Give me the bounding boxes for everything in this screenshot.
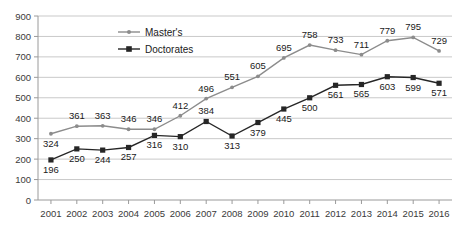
data-label: 729 <box>431 35 447 46</box>
data-point-marker <box>359 82 364 87</box>
data-point-marker <box>127 127 131 131</box>
x-axis-tick-label: 2001 <box>40 208 61 219</box>
y-axis-tick-label: 600 <box>15 72 31 83</box>
data-label: 363 <box>95 110 111 121</box>
data-point-marker <box>100 148 105 153</box>
legend-item-label: Doctorates <box>145 44 193 55</box>
data-label: 599 <box>405 82 421 93</box>
data-label: 346 <box>147 113 163 124</box>
data-label: 733 <box>328 34 344 45</box>
x-axis-tick-label: 2007 <box>196 208 217 219</box>
data-label: 346 <box>121 113 137 124</box>
data-label: 779 <box>379 25 395 36</box>
data-point-marker <box>282 56 286 60</box>
data-point-marker <box>178 134 183 139</box>
data-point-marker <box>126 145 131 150</box>
data-label: 711 <box>354 39 369 50</box>
data-point-marker <box>153 127 157 131</box>
data-label: 496 <box>198 83 214 94</box>
data-point-marker <box>436 81 441 86</box>
line-chart: 0100200300400500600700800900200120022003… <box>0 0 461 238</box>
data-point-marker <box>385 74 390 79</box>
y-axis-tick-label: 200 <box>15 154 31 165</box>
data-label: 313 <box>224 140 240 151</box>
y-axis-tick-label: 0 <box>26 195 31 206</box>
x-axis-tick-label: 2008 <box>221 208 242 219</box>
data-point-marker <box>49 132 53 136</box>
x-axis-tick-label: 2009 <box>247 208 268 219</box>
data-label: 758 <box>302 29 318 40</box>
y-axis-tick-label: 500 <box>15 92 31 103</box>
data-point-marker <box>411 75 416 80</box>
data-point-marker <box>437 49 441 53</box>
data-label: 196 <box>43 164 59 175</box>
data-point-marker <box>334 48 338 52</box>
data-label: 310 <box>172 141 188 152</box>
data-point-marker <box>74 146 79 151</box>
data-point-marker <box>281 106 286 111</box>
data-label: 445 <box>276 113 292 124</box>
data-point-marker <box>75 124 79 128</box>
chart-canvas: 0100200300400500600700800900200120022003… <box>0 0 461 238</box>
data-label: 384 <box>198 105 214 116</box>
data-label: 571 <box>431 87 447 98</box>
data-point-marker <box>307 95 312 100</box>
data-point-marker <box>229 133 234 138</box>
data-point-marker <box>204 97 208 101</box>
data-point-marker <box>308 43 312 47</box>
y-axis-tick-label: 900 <box>15 11 31 22</box>
data-point-marker <box>48 157 53 162</box>
data-point-marker <box>204 119 209 124</box>
data-label: 379 <box>250 127 266 138</box>
data-label: 244 <box>95 154 111 165</box>
data-label: 603 <box>379 81 395 92</box>
x-axis-tick-label: 2011 <box>299 208 319 219</box>
y-axis-tick-label: 300 <box>15 133 31 144</box>
x-axis-tick-label: 2012 <box>325 208 346 219</box>
data-point-marker <box>333 83 338 88</box>
data-label: 316 <box>147 139 163 150</box>
legend-square-marker-icon <box>126 46 132 52</box>
data-label: 250 <box>69 153 85 164</box>
x-axis-tick-label: 2015 <box>403 208 424 219</box>
data-label: 257 <box>121 151 137 162</box>
x-axis-tick-label: 2002 <box>66 208 87 219</box>
data-label: 695 <box>276 42 292 53</box>
x-axis-tick-label: 2016 <box>428 208 449 219</box>
y-axis-tick-label: 800 <box>15 31 31 42</box>
data-point-marker <box>411 36 415 40</box>
data-point-marker <box>385 39 389 43</box>
data-label: 500 <box>302 102 318 113</box>
data-point-marker <box>255 120 260 125</box>
data-label: 361 <box>69 110 85 121</box>
data-point-marker <box>256 74 260 78</box>
y-axis-tick-label: 400 <box>15 113 31 124</box>
x-axis-tick-label: 2005 <box>144 208 165 219</box>
y-axis-tick-label: 100 <box>15 174 31 185</box>
legend-diamond-marker-icon <box>127 30 131 34</box>
data-point-marker <box>101 124 105 128</box>
data-point-marker <box>360 53 364 57</box>
data-point-marker <box>178 114 182 118</box>
y-axis-tick-label: 700 <box>15 51 31 62</box>
x-axis-tick-label: 2004 <box>118 208 139 219</box>
x-axis-tick-label: 2014 <box>377 208 398 219</box>
data-label: 565 <box>354 88 370 99</box>
data-label: 551 <box>224 71 240 82</box>
data-label: 412 <box>172 100 188 111</box>
data-label: 605 <box>250 60 266 71</box>
data-label: 324 <box>43 138 59 149</box>
x-axis-tick-label: 2006 <box>170 208 191 219</box>
legend-item-label: Master's <box>145 27 182 38</box>
data-label: 795 <box>405 21 421 32</box>
x-axis-tick-label: 2013 <box>351 208 372 219</box>
data-point-marker <box>230 85 234 89</box>
x-axis-tick-label: 2010 <box>273 208 294 219</box>
data-point-marker <box>152 133 157 138</box>
data-label: 561 <box>328 89 344 100</box>
x-axis-tick-label: 2003 <box>92 208 113 219</box>
